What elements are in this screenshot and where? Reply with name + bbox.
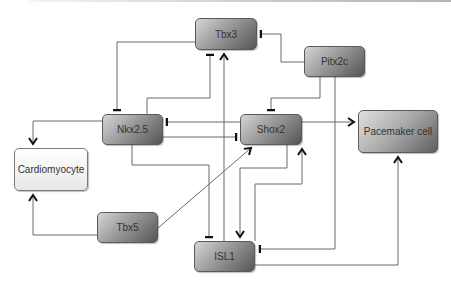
- node-tbx5: Tbx5: [97, 212, 158, 243]
- node-isl1: ISL1: [194, 241, 255, 272]
- edge-isl1-shox2: [255, 149, 302, 241]
- edge-tbx3-nkx25: [117, 42, 195, 110]
- edge-tbx5-shox2: [158, 148, 251, 228]
- node-label: ISL1: [214, 251, 235, 262]
- node-label: Nkx2.5: [117, 124, 148, 135]
- edge-nkx25-tbx3: [147, 55, 210, 114]
- node-shox2: Shox2: [240, 114, 302, 145]
- node-label: Cardiomyocyte: [18, 164, 85, 175]
- node-pacemaker-cell: Pacemaker cell: [358, 110, 438, 153]
- node-label: Pacemaker cell: [364, 126, 432, 137]
- node-cardiomyocyte: Cardiomyocyte: [14, 148, 88, 191]
- edge-tbx5-cardiomyocyte: [33, 195, 97, 235]
- edge-pitx2c-tbx3: [261, 34, 304, 62]
- edge-pitx2c-shox2: [271, 77, 320, 110]
- edge-shox2-isl1: [240, 145, 287, 237]
- node-label: Pitx2c: [321, 56, 348, 67]
- node-label: Shox2: [257, 124, 285, 135]
- node-pitx2c: Pitx2c: [304, 46, 365, 77]
- node-nkx25: Nkx2.5: [102, 114, 163, 145]
- node-label: Tbx5: [116, 222, 138, 233]
- node-label: Tbx3: [215, 29, 237, 40]
- node-tbx3: Tbx3: [195, 18, 257, 50]
- edge-nkx25-cardiomyocyte: [33, 121, 102, 144]
